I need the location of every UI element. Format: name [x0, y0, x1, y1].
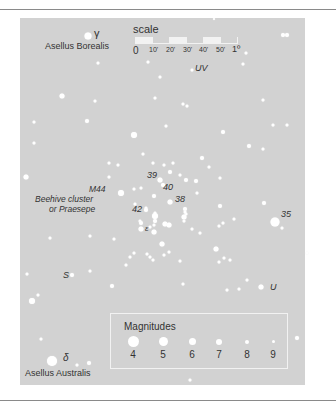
legend-star-icon — [189, 338, 196, 345]
legend-magnitude-label: 8 — [237, 349, 257, 360]
label-m44: M44 — [89, 184, 106, 194]
star — [153, 219, 157, 223]
label-asellus-borealis: Asellus Borealis — [45, 41, 109, 51]
star — [186, 105, 189, 108]
label-38: 38 — [175, 194, 185, 204]
bottom-rule — [0, 400, 336, 401]
star — [229, 259, 232, 262]
legend-magnitude-label: 9 — [263, 349, 283, 360]
star — [191, 228, 194, 231]
star — [233, 218, 236, 221]
star — [172, 162, 175, 165]
star — [113, 238, 116, 241]
star — [139, 227, 144, 232]
star — [118, 190, 124, 196]
star — [131, 132, 137, 138]
label-asellus-australis: Asellus Australis — [25, 368, 91, 378]
star — [117, 164, 120, 167]
star — [262, 99, 265, 102]
star — [147, 61, 150, 64]
label-uv: UV — [195, 63, 208, 73]
star — [142, 153, 145, 156]
star — [271, 218, 280, 227]
star — [182, 103, 185, 106]
label-u: U — [270, 282, 277, 292]
star — [281, 227, 284, 230]
scale-tick: 1º — [232, 44, 240, 54]
star — [245, 52, 248, 55]
legend-star-icon — [128, 336, 139, 347]
star — [24, 175, 29, 180]
star — [152, 194, 156, 198]
label-42: 42 — [132, 204, 142, 214]
legend-item-mag-7: 7 — [209, 336, 229, 360]
star — [295, 336, 299, 340]
scale-bar — [135, 37, 238, 44]
star — [29, 298, 35, 304]
star — [196, 192, 199, 195]
star — [184, 178, 188, 182]
legend-item-mag-6: 6 — [182, 336, 202, 360]
star — [133, 188, 136, 191]
star — [152, 230, 157, 235]
star — [37, 294, 40, 297]
star — [158, 178, 163, 183]
legend-item-mag-4: 4 — [123, 336, 143, 360]
star — [189, 379, 192, 382]
scale-segment — [136, 37, 153, 43]
star — [89, 270, 92, 273]
star — [129, 256, 132, 259]
star — [247, 144, 251, 148]
star — [168, 170, 172, 174]
star — [33, 121, 36, 124]
legend-star-icon — [216, 339, 222, 345]
scale-segment — [153, 37, 170, 43]
star — [184, 211, 187, 214]
star — [208, 166, 211, 169]
star — [218, 225, 221, 228]
star — [89, 235, 92, 238]
label-39: 39 — [147, 170, 157, 180]
star — [272, 124, 275, 127]
star — [218, 261, 221, 264]
scale-tick: 30' — [183, 46, 192, 53]
star — [40, 338, 43, 341]
star — [219, 177, 222, 180]
legend-title: Magnitudes — [124, 321, 176, 332]
star — [108, 176, 111, 179]
star — [199, 232, 202, 235]
star — [108, 162, 111, 165]
star — [140, 187, 143, 190]
star — [218, 204, 222, 208]
scale-tick: 20' — [166, 46, 175, 53]
legend-item-mag-9: 9 — [263, 336, 283, 360]
star — [167, 223, 172, 228]
star — [159, 76, 162, 79]
star — [139, 221, 143, 225]
scale-segment — [204, 37, 220, 43]
star — [160, 242, 165, 247]
star — [246, 279, 249, 282]
star — [262, 201, 266, 205]
star — [286, 124, 289, 127]
legend-star-icon — [245, 340, 249, 344]
label-beehive: Beehive cluster — [35, 194, 93, 204]
star — [226, 289, 229, 292]
star — [146, 253, 149, 256]
scale-segment — [187, 37, 204, 43]
legend-star-icon — [159, 337, 168, 346]
legend-magnitude-label: 5 — [153, 349, 173, 360]
top-rule — [0, 9, 336, 10]
star — [110, 284, 114, 288]
star — [213, 18, 215, 20]
star — [49, 237, 52, 240]
star — [33, 142, 36, 145]
star — [85, 33, 92, 40]
magnitude-legend: Magnitudes 456789 — [110, 313, 288, 369]
star — [306, 252, 309, 255]
star — [97, 62, 100, 65]
star — [60, 94, 65, 99]
star — [262, 148, 265, 151]
star — [87, 361, 91, 365]
star — [165, 125, 168, 128]
